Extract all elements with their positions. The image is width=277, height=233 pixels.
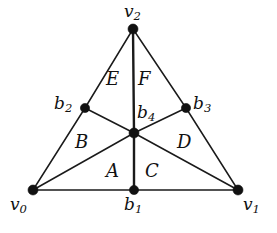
vertex-label-b4: b4 [137, 104, 155, 121]
vertex-label-sub-b2: 2 [65, 101, 72, 115]
vertex-label-base-v1: v [243, 194, 253, 214]
vertex-label-base-b2: b [54, 93, 65, 113]
vertex-dot-v2 [128, 24, 138, 34]
vertex-label-v0: v0 [10, 196, 27, 213]
region-label-A: A [106, 162, 119, 180]
region-label-B: B [75, 133, 88, 151]
vertex-label-base-v2: v [124, 1, 134, 21]
vertex-label-base-b1: b [124, 194, 135, 214]
vertex-label-base-b3: b [193, 93, 204, 113]
vertex-label-v2: v2 [124, 3, 141, 20]
vertex-dot-v0 [28, 185, 38, 195]
region-label-F: F [138, 70, 151, 88]
vertex-label-sub-v2: 2 [134, 9, 141, 23]
vertex-label-b3: b3 [193, 95, 211, 112]
vertex-label-base-b4: b [137, 102, 148, 122]
vertex-label-b2: b2 [54, 95, 72, 112]
vertex-label-sub-v0: 0 [20, 202, 27, 216]
vertex-dot-v1 [233, 185, 243, 195]
region-label-D: D [177, 133, 191, 151]
region-label-C: C [145, 162, 159, 180]
vertex-label-b1: b1 [124, 196, 142, 213]
vertex-dot-b3 [181, 103, 190, 112]
vertex-label-base-v0: v [10, 194, 20, 214]
region-label-E: E [106, 70, 119, 88]
edge-v2-b4 [133, 29, 134, 133]
edge-b2-b4 [85, 108, 134, 133]
vertex-label-sub-b4: 4 [148, 110, 155, 124]
triangle-subdivision-figure: v0v1v2b1b2b3b4 ABCDEF [0, 0, 277, 233]
vertex-dot-b4 [129, 128, 139, 138]
vertex-label-v1: v1 [243, 196, 260, 213]
vertex-label-sub-b3: 3 [204, 101, 211, 115]
vertex-label-sub-b1: 1 [135, 202, 142, 216]
vertex-dot-b2 [80, 103, 89, 112]
vertex-label-sub-v1: 1 [253, 202, 260, 216]
edge-b3-v1 [186, 108, 238, 190]
